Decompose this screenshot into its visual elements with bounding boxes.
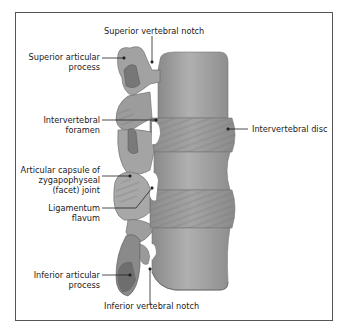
label-inferior-articular-process: Inferior articular process <box>20 270 100 290</box>
label-line: Articular capsule of <box>14 165 100 175</box>
label-line: process <box>20 280 100 290</box>
label-line: Superior articular <box>20 52 100 62</box>
label-intervertebral-disc: Intervertebral disc <box>252 124 327 134</box>
label-line: Intervertebral <box>20 115 100 125</box>
label-superior-vertebral-notch: Superior vertebral notch <box>104 26 204 36</box>
label-ligamentum-flavum: Ligamentum flavum <box>20 203 100 223</box>
label-line: (facet) joint <box>14 185 100 195</box>
label-intervertebral-foramen: Intervertebral foramen <box>20 115 100 135</box>
label-articular-capsule: Articular capsule of zygapophyseal (face… <box>14 165 100 195</box>
label-line: process <box>20 62 100 72</box>
vertebral-body-stack <box>150 52 235 290</box>
label-superior-articular-process: Superior articular process <box>20 52 100 72</box>
label-line: zygapophyseal <box>14 175 100 185</box>
label-line: Ligamentum <box>20 203 100 213</box>
label-inferior-vertebral-notch: Inferior vertebral notch <box>104 301 199 311</box>
label-line: foramen <box>20 125 100 135</box>
label-line: Inferior articular <box>20 270 100 280</box>
label-line: flavum <box>20 213 100 223</box>
